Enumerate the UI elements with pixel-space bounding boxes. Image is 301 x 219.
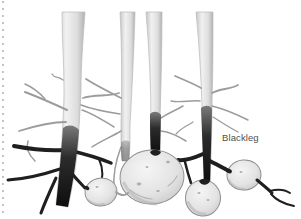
tuber-right xyxy=(226,158,263,191)
page: Blackleg xyxy=(0,0,301,219)
illustration-canvas: Blackleg xyxy=(0,0,301,219)
blackleg-illustration: Blackleg xyxy=(0,0,301,219)
stem-2-base-shade xyxy=(121,141,130,162)
stem-2 xyxy=(120,12,135,161)
stem-3-blackleg xyxy=(150,112,161,153)
blackleg-label: Blackleg xyxy=(222,132,259,143)
tuber-right-root xyxy=(257,180,294,206)
